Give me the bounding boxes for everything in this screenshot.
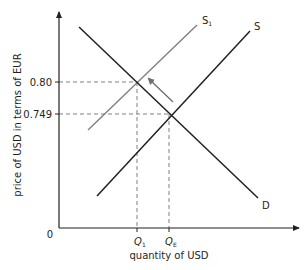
y-axis-label: price of USD in terms of EUR [12,53,23,196]
y-tick-label-0.749: 0.749 [23,109,52,120]
guide-lines [59,82,169,228]
curve-label-d: D [262,200,270,211]
x-tick-label-q1: Q1 [134,236,146,248]
shift-arrow-icon [149,79,173,102]
supply-curve-s1 [88,25,197,130]
x-tick-label-qe: QE [165,236,177,248]
supply-demand-diagram: 0.80 0.749 0 Q1 QE quantity of USD price… [0,0,308,270]
curve-label-s1: S1 [202,15,212,27]
curve-label-s: S [254,21,260,32]
supply-curve [97,31,250,196]
origin-label: 0 [47,229,53,240]
y-tick-label-0.80: 0.80 [30,77,52,88]
x-axis-label: quantity of USD [129,250,208,261]
